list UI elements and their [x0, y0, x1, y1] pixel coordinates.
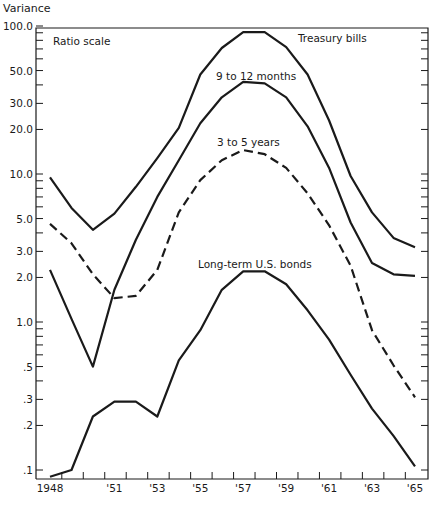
variance-line-chart: Variance Ratio scale 100.050.030.020.010… — [0, 0, 437, 507]
scale-note: Ratio scale — [53, 35, 110, 47]
y-axis-title: Variance — [3, 2, 51, 15]
series-lines — [50, 32, 415, 477]
y-tick-label: 1.0 — [16, 316, 33, 328]
plot-frame — [36, 28, 428, 479]
x-tick-label: '57 — [235, 482, 251, 494]
y-tick-label: .2 — [23, 419, 33, 431]
y-tick-label: 3.0 — [16, 245, 33, 257]
y-tick-label: 50.0 — [10, 65, 33, 77]
y-tick-label: 2.0 — [16, 271, 33, 283]
series-label: Long-term U.S. bonds — [198, 258, 312, 270]
x-tick-label: '65 — [407, 482, 423, 494]
x-tick-label: '59 — [278, 482, 294, 494]
x-tick-label: '63 — [364, 482, 380, 494]
series-label: Treasury bills — [297, 32, 367, 44]
x-tick-label: '55 — [192, 482, 208, 494]
x-tick-label: '51 — [106, 482, 122, 494]
y-tick-label: .5 — [23, 361, 33, 373]
y-tick-label: 100.0 — [3, 20, 33, 32]
series-label: 9 to 12 months — [216, 70, 296, 82]
series-line-long-term-u-s-bonds — [50, 271, 415, 477]
x-tick-label: '61 — [321, 482, 337, 494]
series-label: 3 to 5 years — [217, 136, 280, 148]
y-tick-label: .3 — [23, 393, 33, 405]
y-tick-label: 20.0 — [10, 123, 33, 135]
y-tick-label: 10.0 — [10, 168, 33, 180]
y-tick-label: 5.0 — [16, 213, 33, 225]
y-tick-label: .1 — [23, 464, 33, 476]
x-axis: 1948'51'53'55'57'59'61'63'65 — [37, 472, 423, 494]
series-line-3-to-5-years — [50, 150, 415, 397]
y-tick-label: 30.0 — [10, 97, 33, 109]
x-tick-label: '53 — [149, 482, 165, 494]
x-tick-label: 1948 — [37, 482, 64, 494]
series-line-9-to-12-months — [50, 82, 415, 367]
